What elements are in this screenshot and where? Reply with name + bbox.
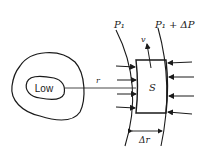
low-label: Low xyxy=(35,83,54,94)
velocity-label: v xyxy=(141,35,146,44)
right-force-arrows xyxy=(168,62,194,114)
isobar-p1-plus-dp xyxy=(158,28,167,146)
pressure-inner-label: P₁ xyxy=(113,19,125,30)
velocity-arrow xyxy=(147,44,151,68)
pressure-gradient-diagram: Low r S v P₁ P₁ + ΔP Δr xyxy=(0,0,199,163)
pressure-outer-label: P₁ + ΔP xyxy=(154,19,195,30)
width-label: Δr xyxy=(138,135,150,145)
radius-label: r xyxy=(96,76,101,85)
parcel-label: S xyxy=(149,82,156,93)
